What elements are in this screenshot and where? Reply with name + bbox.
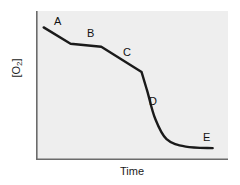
plot-area: A B C D E [36,11,228,160]
y-axis-label: [O2] [10,40,22,96]
x-axis-label: Time [36,165,228,177]
annotation-d: D [149,96,157,107]
annotation-e: E [203,132,210,143]
y-axis-label-text: [O [10,66,22,78]
annotation-a: A [54,16,61,27]
y-axis-label-subscript: 2 [15,62,24,66]
annotation-c: C [123,47,131,58]
chart-svg [36,11,228,160]
annotation-b: B [87,28,94,39]
figure: [O2] Time A B C D E [0,0,240,185]
